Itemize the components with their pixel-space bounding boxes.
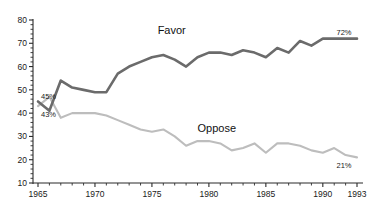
favor-line xyxy=(38,39,357,111)
favor-series-label: Favor xyxy=(158,24,186,36)
series-annotations: Favor Oppose xyxy=(158,24,236,134)
x-tick-label: 1965 xyxy=(29,189,48,199)
data-series-group xyxy=(38,39,357,158)
y-tick-label: 30 xyxy=(18,131,28,141)
oppose-start-value-label: 43% xyxy=(41,110,56,119)
y-tick-label: 10 xyxy=(18,178,28,188)
favor-end-value-label: 72% xyxy=(336,28,351,37)
x-axis-tick-labels: 1965197019751980198519901993 xyxy=(29,189,367,199)
y-axis-tick-labels: 8070605040302010 xyxy=(18,15,28,188)
favor-start-value-label: 45% xyxy=(41,92,56,101)
y-axis-major-ticks xyxy=(29,20,33,183)
chart-canvas: 8070605040302010 19651970197519801985199… xyxy=(0,0,378,220)
y-tick-label: 70 xyxy=(18,38,28,48)
x-tick-label: 1975 xyxy=(142,189,161,199)
x-tick-label: 1985 xyxy=(256,189,275,199)
oppose-end-value-label: 21% xyxy=(336,161,351,170)
oppose-series-label: Oppose xyxy=(198,122,237,134)
x-tick-label: 1970 xyxy=(86,189,105,199)
x-tick-label: 1980 xyxy=(199,189,218,199)
x-tick-label: 1990 xyxy=(313,189,332,199)
y-tick-label: 60 xyxy=(18,62,28,72)
y-tick-label: 40 xyxy=(18,108,28,118)
y-tick-label: 50 xyxy=(18,85,28,95)
y-axis: 8070605040302010 xyxy=(18,15,33,188)
x-axis: 1965197019751980198519901993 xyxy=(29,183,367,199)
y-tick-label: 80 xyxy=(18,15,28,25)
line-chart: 8070605040302010 19651970197519801985199… xyxy=(0,0,378,220)
y-tick-label: 20 xyxy=(18,155,28,165)
x-tick-label: 1993 xyxy=(348,189,367,199)
